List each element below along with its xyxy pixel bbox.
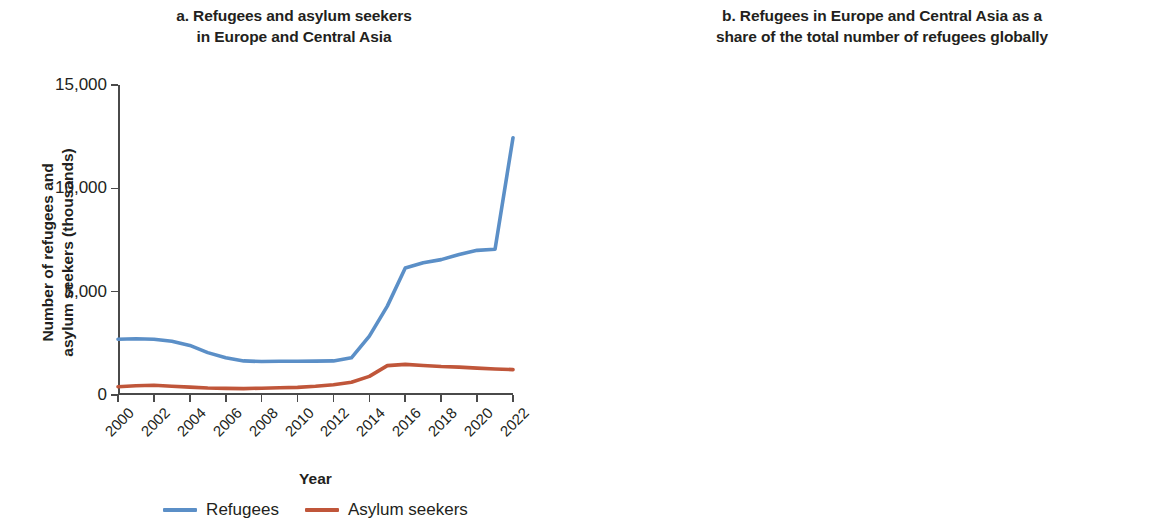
panel-a-series-line [118, 138, 513, 362]
legend-line-icon [305, 508, 339, 512]
panel-a-y-tick-label: 5,000 [64, 281, 107, 301]
panel-a-x-tick-label: 2000 [101, 404, 137, 440]
panel-a-x-tick [297, 395, 299, 402]
figure: a. Refugees and asylum seekers in Europe… [0, 0, 1176, 530]
panel-a: a. Refugees and asylum seekers in Europe… [0, 0, 588, 530]
panel-a-y-axis-title: Number of refugees and asylum seekers (t… [38, 102, 79, 402]
panel-a-x-tick-label: 2014 [353, 404, 389, 440]
panel-a-series-layer [118, 85, 513, 395]
panel-a-x-tick [189, 395, 191, 402]
panel-a-x-tick [440, 395, 442, 402]
legend-label: Refugees [206, 500, 279, 520]
panel-a-title-line1: a. Refugees and asylum seekers [0, 6, 588, 27]
legend-label: Asylum seekers [348, 500, 468, 520]
panel-a-x-tick [225, 395, 227, 402]
legend-line-icon [163, 508, 197, 512]
legend-item-refugees: Refugees [163, 500, 279, 520]
panel-b-title-line1: b. Refugees in Europe and Central Asia a… [588, 6, 1176, 27]
panel-a-y-tick [111, 188, 118, 190]
panel-a-y-axis-title-line2: asylum seekers (thousands) [58, 102, 78, 402]
panel-a-x-tick-label: 2018 [425, 404, 461, 440]
panel-a-title-line2: in Europe and Central Asia [0, 27, 588, 48]
panel-a-y-axis-title-line1: Number of refugees and [38, 102, 58, 402]
panel-a-x-tick [369, 395, 371, 402]
panel-a-title: a. Refugees and asylum seekers in Europe… [0, 6, 588, 48]
panel-a-x-tick-label: 2006 [209, 404, 245, 440]
panel-a-plot-area: 05,00010,00015,000 200020022004200620082… [118, 85, 513, 395]
legend: RefugeesAsylum seekers [118, 500, 513, 520]
panel-a-x-tick [404, 395, 406, 402]
panel-a-series-line [118, 364, 513, 388]
panel-a-x-tick [333, 395, 335, 402]
panel-a-x-tick [153, 395, 155, 402]
panel-a-x-tick [117, 395, 119, 402]
panel-b-title-line2: share of the total number of refugees gl… [588, 27, 1176, 48]
panel-a-x-tick-label: 2008 [245, 404, 281, 440]
panel-a-y-tick-label: 15,000 [55, 75, 107, 95]
legend-item-asylum-seekers: Asylum seekers [305, 500, 468, 520]
panel-a-x-tick-label: 2002 [137, 404, 173, 440]
panel-b-title: b. Refugees in Europe and Central Asia a… [588, 6, 1176, 48]
panel-a-x-tick-label: 2020 [460, 404, 496, 440]
panel-a-y-tick [111, 84, 118, 86]
panel-b: b. Refugees in Europe and Central Asia a… [588, 0, 1176, 530]
panel-a-x-tick [476, 395, 478, 402]
panel-a-x-tick [261, 395, 263, 402]
panel-a-x-tick-label: 2016 [389, 404, 425, 440]
panel-a-y-tick-label: 0 [98, 385, 107, 405]
panel-a-y-tick [111, 291, 118, 293]
panel-a-x-tick-label: 2010 [281, 404, 317, 440]
panel-a-y-tick-label: 10,000 [55, 178, 107, 198]
panel-a-x-tick [512, 395, 514, 402]
panel-a-x-tick-label: 2022 [496, 404, 532, 440]
panel-a-x-tick-label: 2004 [173, 404, 209, 440]
panel-a-x-tick-label: 2012 [317, 404, 353, 440]
panel-a-x-axis-title: Year [118, 470, 513, 488]
